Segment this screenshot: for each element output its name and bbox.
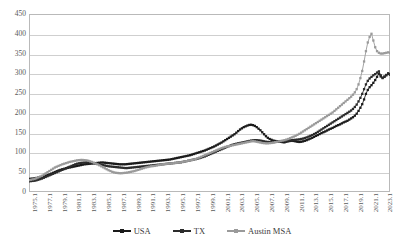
data-point-marker (389, 52, 390, 54)
legend-label: USA (134, 227, 151, 236)
data-point-marker (352, 108, 354, 110)
data-point-marker (374, 46, 376, 48)
x-axis-tick-label: 2003.1 (239, 193, 246, 212)
x-axis-tick-label: 1987.1 (121, 193, 128, 212)
y-axis-tick-label: 100 (15, 148, 26, 156)
data-point-marker (367, 41, 369, 43)
series-usa (29, 73, 390, 181)
data-point-marker (359, 107, 361, 109)
data-point-marker (363, 98, 365, 100)
data-point-marker (261, 131, 263, 133)
data-point-marker (372, 39, 374, 41)
x-axis-tick-label: 1983.1 (91, 193, 98, 212)
y-axis-tick-label: 250 (15, 89, 26, 97)
x-axis: 1975.11977.11979.11981.11983.11985.11987… (29, 193, 390, 225)
y-axis-tick-label: 200 (15, 109, 26, 117)
x-axis-tick-label: 1985.1 (106, 193, 113, 212)
x-axis-tick-label: 1991.1 (150, 193, 157, 212)
house-price-index-chart: 450400350300250200150100500 1975.11977.1… (0, 0, 404, 241)
y-axis-tick-label: 50 (19, 168, 27, 176)
series-line (29, 34, 390, 180)
series-layer (29, 14, 390, 192)
x-axis-tick-label: 2021.1 (373, 193, 380, 212)
data-point-marker (363, 88, 365, 90)
data-point-marker (361, 70, 363, 72)
data-point-marker (372, 82, 374, 84)
y-axis-tick-label: 0 (22, 188, 26, 196)
data-point-marker (380, 74, 382, 76)
legend-item-tx[interactable]: TX (173, 227, 205, 236)
y-axis: 450400350300250200150100500 (0, 0, 29, 192)
data-point-marker (352, 94, 354, 96)
data-point-marker (359, 77, 361, 79)
data-point-marker (370, 33, 372, 35)
y-axis-tick-label: 450 (15, 10, 26, 18)
data-point-marker (368, 86, 370, 88)
x-axis-tick-label: 2015.1 (328, 193, 335, 212)
x-axis-tick-label: 2001.1 (225, 193, 232, 212)
data-point-marker (356, 88, 358, 90)
x-axis-tick-label: 1981.1 (76, 193, 83, 212)
x-axis-tick-label: 2019.1 (358, 193, 365, 212)
x-axis-tick-label: 2011.1 (299, 193, 306, 212)
data-point-marker (357, 110, 359, 112)
legend-label: TX (194, 227, 205, 236)
series-austin-msa (29, 33, 390, 182)
x-axis-tick-label: 1993.1 (165, 193, 172, 212)
x-axis-tick-label: 1989.1 (136, 193, 143, 212)
data-point-marker (361, 103, 363, 105)
x-axis-tick-label: 2007.1 (269, 193, 276, 212)
data-point-marker (354, 106, 356, 108)
data-point-marker (359, 97, 361, 99)
data-point-marker (389, 73, 390, 75)
x-axis-tick-label: 2023.1 (387, 193, 394, 212)
legend-item-usa[interactable]: USA (113, 227, 151, 236)
y-axis-tick-label: 150 (15, 129, 26, 137)
y-axis-tick-label: 400 (15, 30, 26, 38)
data-point-marker (357, 83, 359, 85)
x-axis-tick-label: 1997.1 (195, 193, 202, 212)
data-point-marker (354, 91, 356, 93)
x-axis-tick-label: 1977.1 (47, 193, 54, 212)
data-point-marker (368, 36, 370, 38)
x-axis-tick-label: 1975.1 (32, 193, 39, 212)
x-axis-tick-label: 1995.1 (180, 193, 187, 212)
legend-marker-icon (227, 227, 245, 235)
legend-marker-icon (113, 227, 131, 235)
legend-label: Austin MSA (248, 227, 291, 236)
y-axis-tick-label: 300 (15, 69, 26, 77)
data-point-marker (365, 83, 367, 85)
chart-legend: USATXAustin MSA (0, 224, 404, 238)
data-point-marker (354, 115, 356, 117)
data-point-marker (378, 70, 380, 72)
legend-marker-icon (173, 227, 191, 235)
x-axis-tick-label: 2013.1 (313, 193, 320, 212)
data-point-marker (356, 103, 358, 105)
data-point-marker (361, 93, 363, 95)
x-axis-tick-label: 2017.1 (343, 193, 350, 212)
data-point-marker (367, 80, 369, 82)
data-point-marker (367, 89, 369, 91)
data-point-marker (370, 84, 372, 86)
x-axis-tick-label: 2005.1 (254, 193, 261, 212)
data-point-marker (356, 113, 358, 115)
data-point-marker (365, 50, 367, 52)
legend-item-austin-msa[interactable]: Austin MSA (227, 227, 291, 236)
y-axis-tick-label: 350 (15, 50, 26, 58)
data-point-marker (259, 129, 261, 131)
data-point-marker (376, 76, 378, 78)
x-axis-tick-label: 1999.1 (210, 193, 217, 212)
data-point-marker (357, 100, 359, 102)
data-point-marker (365, 93, 367, 95)
data-point-marker (263, 133, 265, 135)
data-point-marker (374, 79, 376, 81)
x-axis-tick-label: 1979.1 (62, 193, 69, 212)
data-point-marker (363, 60, 365, 62)
x-axis-tick-label: 2009.1 (284, 193, 291, 212)
data-point-marker (350, 96, 352, 98)
